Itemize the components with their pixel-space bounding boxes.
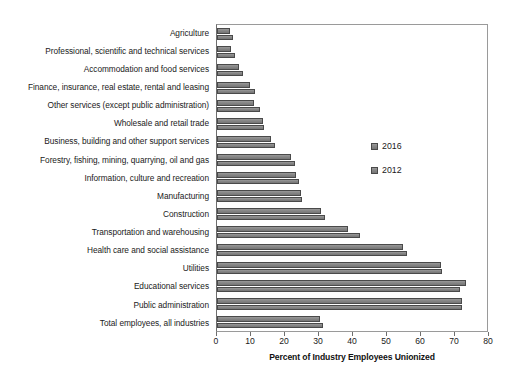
category-label: Transportation and warehousing	[92, 228, 209, 237]
category-label: Finance, insurance, real estate, rental …	[28, 83, 209, 92]
bar-2012	[217, 323, 323, 328]
bar-group	[217, 313, 487, 331]
legend-item-2016[interactable]: 2016	[371, 141, 402, 151]
bar-2016	[217, 100, 254, 105]
category-row: Utilities	[0, 260, 214, 278]
bar-2016	[217, 64, 239, 69]
bar-series-container	[217, 25, 487, 331]
bar-2016	[217, 208, 321, 213]
bar-2012	[217, 287, 460, 292]
category-label: Accommodation and food services	[84, 65, 209, 74]
bar-group	[217, 169, 487, 187]
legend-item-2012[interactable]: 2012	[371, 165, 402, 175]
category-label: Business, building and other support ser…	[44, 137, 209, 146]
bar-2016	[217, 298, 462, 303]
legend-swatch-icon	[371, 143, 378, 150]
bar-group	[217, 187, 487, 205]
bar-2012	[217, 71, 243, 76]
bar-2016	[217, 280, 466, 285]
bar-2016	[217, 262, 441, 267]
x-axis-title: Percent of Industry Employees Unionized	[216, 352, 488, 362]
bar-group	[217, 133, 487, 151]
category-label: Health care and social assistance	[87, 246, 209, 255]
category-row: Other services (except public administra…	[0, 97, 214, 115]
bar-2012	[217, 215, 325, 220]
bar-group	[217, 277, 487, 295]
category-label: Utilities	[183, 264, 209, 273]
bar-2016	[217, 316, 320, 321]
bar-2012	[217, 107, 260, 112]
bar-2012	[217, 125, 264, 130]
legend-label: 2016	[382, 141, 402, 151]
category-label: Other services (except public administra…	[48, 101, 209, 110]
bar-2016	[217, 46, 231, 51]
bar-group	[217, 61, 487, 79]
category-row: Wholesale and retail trade	[0, 115, 214, 133]
legend-swatch-icon	[371, 167, 378, 174]
category-label: Forestry, fishing, mining, quarrying, oi…	[40, 156, 209, 165]
category-label: Public administration	[133, 301, 209, 310]
category-label: Professional, scientific and technical s…	[45, 47, 209, 56]
bar-chart: AgricultureProfessional, scientific and …	[0, 0, 510, 381]
bar-group	[217, 115, 487, 133]
bar-2012	[217, 179, 299, 184]
x-tick-label: 10	[245, 336, 255, 346]
x-tick-label: 30	[313, 336, 323, 346]
bar-group	[217, 223, 487, 241]
legend-label: 2012	[382, 165, 402, 175]
category-label: Educational services	[134, 282, 209, 291]
bar-2012	[217, 89, 255, 94]
bar-group	[217, 25, 487, 43]
bar-group	[217, 295, 487, 313]
bar-2012	[217, 143, 275, 148]
category-row: Business, building and other support ser…	[0, 133, 214, 151]
category-label: Wholesale and retail trade	[114, 119, 209, 128]
category-row: Information, culture and recreation	[0, 169, 214, 187]
category-row: Transportation and warehousing	[0, 223, 214, 241]
category-row: Manufacturing	[0, 187, 214, 205]
category-row: Construction	[0, 205, 214, 223]
category-label: Total employees, all industries	[100, 319, 209, 328]
bar-2016	[217, 172, 296, 177]
bar-2016	[217, 82, 250, 87]
bar-2016	[217, 28, 230, 33]
bar-2012	[217, 305, 462, 310]
bar-2016	[217, 244, 403, 249]
x-tick-label: 40	[347, 336, 357, 346]
category-row: Public administration	[0, 296, 214, 314]
category-row: Forestry, fishing, mining, quarrying, oi…	[0, 151, 214, 169]
bar-2016	[217, 226, 348, 231]
category-row: Health care and social assistance	[0, 242, 214, 260]
bar-group	[217, 241, 487, 259]
category-row: Agriculture	[0, 24, 214, 42]
x-axis-tick-labels: 01020304050607080	[216, 336, 488, 350]
bar-group	[217, 97, 487, 115]
category-row: Accommodation and food services	[0, 60, 214, 78]
bar-2016	[217, 136, 271, 141]
plot-area	[216, 24, 488, 332]
category-label: Agriculture	[170, 29, 209, 38]
bar-2012	[217, 233, 360, 238]
bar-2012	[217, 53, 235, 58]
category-label: Information, culture and recreation	[84, 174, 209, 183]
bar-group	[217, 151, 487, 169]
x-tick-label: 50	[381, 336, 391, 346]
bar-2012	[217, 161, 295, 166]
bar-group	[217, 43, 487, 61]
x-tick-label: 0	[214, 336, 219, 346]
category-axis-labels: AgricultureProfessional, scientific and …	[0, 24, 214, 332]
bar-2016	[217, 190, 301, 195]
category-row: Finance, insurance, real estate, rental …	[0, 78, 214, 96]
category-row: Total employees, all industries	[0, 314, 214, 332]
category-label: Construction	[163, 210, 209, 219]
category-label: Manufacturing	[157, 192, 209, 201]
chart-legend: 20162012	[371, 141, 402, 175]
category-row: Professional, scientific and technical s…	[0, 42, 214, 60]
x-tick-label: 20	[279, 336, 289, 346]
x-tick-label: 70	[449, 336, 459, 346]
bar-2016	[217, 118, 263, 123]
bar-group	[217, 205, 487, 223]
bar-2012	[217, 251, 407, 256]
x-tick-label: 60	[415, 336, 425, 346]
bar-2012	[217, 269, 442, 274]
